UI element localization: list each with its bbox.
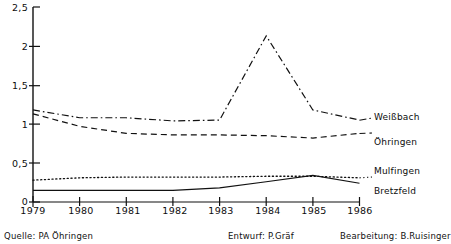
footer-source: Quelle: PA Öhringen <box>4 231 93 241</box>
series-label-oehringen: Öhringen <box>374 137 417 147</box>
series-label-weissbach: Weißbach <box>374 112 420 122</box>
leader-mulfingen <box>360 177 373 178</box>
y-axis-ticks <box>29 7 40 202</box>
series-label-mulfingen: Mulfingen <box>374 166 420 176</box>
series-line-weissbach <box>33 36 360 121</box>
leader-oehringen <box>360 133 373 134</box>
footer-design: Entwurf: P.Gräf <box>228 231 294 241</box>
footer-editing: Bearbeitung: B.Ruisinger <box>340 231 451 241</box>
series-label-bretzfeld: Bretzfeld <box>374 186 416 196</box>
series-line-mulfingen <box>33 176 360 180</box>
leader-weissbach <box>360 118 373 120</box>
